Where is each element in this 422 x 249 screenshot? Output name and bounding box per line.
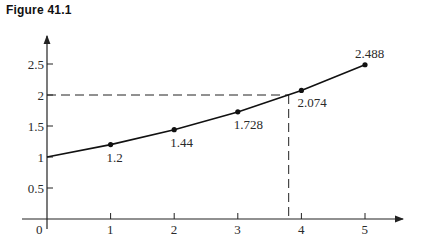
x-tick-label: 3 xyxy=(234,222,241,237)
y-tick-label: 2 xyxy=(38,88,45,103)
axes: 0123450.511.522.5 xyxy=(22,36,403,237)
series-line xyxy=(47,65,365,157)
y-tick-label: 1 xyxy=(38,150,45,165)
point-label: 2.074 xyxy=(297,95,327,110)
point-labels: 1.21.441.7282.0742.488 xyxy=(107,46,385,165)
y-tick-label: 0.5 xyxy=(28,181,44,196)
point-label: 2.488 xyxy=(355,46,384,61)
point-label: 1.728 xyxy=(234,117,263,132)
y-tick-label: 1.5 xyxy=(28,119,44,134)
data-point xyxy=(299,88,304,93)
line-chart: 0123450.511.522.5 1.21.441.7282.0742.488 xyxy=(0,0,422,249)
x-tick-label: 2 xyxy=(171,222,178,237)
x-tick-label: 4 xyxy=(298,222,305,237)
data-point xyxy=(172,127,177,132)
data-point xyxy=(362,62,367,67)
point-label: 1.44 xyxy=(170,135,193,150)
x-tick-label: 5 xyxy=(362,222,369,237)
x-tick-label: 1 xyxy=(107,222,114,237)
dashed-guides xyxy=(47,95,289,219)
y-tick-label: 2.5 xyxy=(28,57,44,72)
point-label: 1.2 xyxy=(107,150,123,165)
data-point xyxy=(108,142,113,147)
x-tick-label: 0 xyxy=(36,222,43,237)
data-point xyxy=(235,109,240,114)
